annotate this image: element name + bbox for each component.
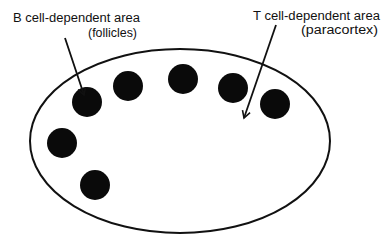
t-cell-label-line2: (paracortex) [301,23,378,37]
b-cell-label-line2: (follicles) [88,26,137,40]
follicle-dot [218,73,248,103]
follicles-group [47,64,290,200]
b-cell-arrow [65,38,84,95]
t-cell-label-line1: T cell-dependent area [253,9,380,23]
follicle-dot [113,71,143,101]
follicle-dot [72,87,102,117]
follicle-dot [47,128,77,158]
follicle-dot [168,64,198,94]
follicle-dot [80,170,110,200]
b-cell-label-line1: B cell-dependent area [13,11,140,25]
follicle-dot [260,89,290,119]
lymph-node-diagram: B cell-dependent area (follicles) T cell… [0,0,381,245]
